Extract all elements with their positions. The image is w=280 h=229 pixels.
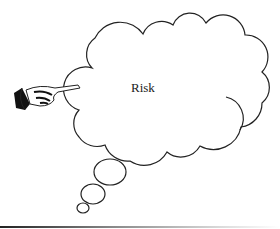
- pointing-hand-icon: [14, 85, 80, 110]
- thought-cloud: [0, 0, 280, 229]
- cloud-label: Risk: [131, 80, 155, 96]
- bottom-rule: [0, 226, 280, 228]
